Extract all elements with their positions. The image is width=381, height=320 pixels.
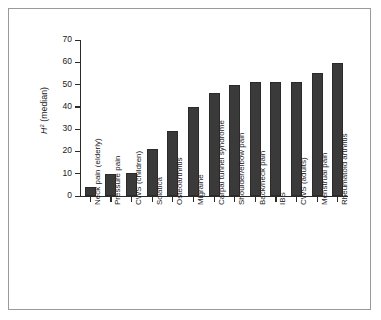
bar — [270, 82, 281, 196]
x-axis-tick-label: Rheumatoid arthritis — [341, 133, 349, 205]
x-axis-tick — [152, 197, 153, 202]
x-axis-tick-label: IBS — [279, 192, 287, 205]
y-axis-tick-label: 0 — [46, 191, 72, 200]
y-axis-superscript: 2 — [39, 124, 45, 127]
x-axis-tick — [172, 197, 173, 202]
x-axis-tick-label: Shoulder/elbow pain — [238, 133, 246, 206]
x-axis-tick-label: Osteoarthritis — [176, 157, 184, 205]
x-axis-tick-label: Menstrual pain — [321, 153, 329, 205]
x-axis-tick — [255, 197, 256, 202]
x-axis-tick-label: Neck pain (elderly) — [94, 138, 102, 205]
x-axis-tick — [275, 197, 276, 202]
y-axis-tick-label: 30 — [46, 124, 72, 133]
x-axis-tick — [234, 197, 235, 202]
y-axis-tick — [75, 84, 80, 85]
y-axis-tick-label: 70 — [46, 35, 72, 44]
x-axis-tick — [90, 197, 91, 202]
y-axis-tick — [75, 173, 80, 174]
y-axis-tick — [75, 129, 80, 130]
bar-chart: H2 (median) 706050403020100 Neck pain (e… — [0, 0, 381, 320]
x-axis-tick — [214, 197, 215, 202]
x-axis-tick-label: Pressure pain — [114, 156, 122, 205]
x-axis-tick-label: CWS (children) — [135, 151, 143, 205]
y-axis-tick-label: 60 — [46, 57, 72, 66]
x-axis-tick — [296, 197, 297, 202]
x-axis-tick-label: CWS (adults) — [300, 157, 308, 205]
x-axis-tick-label: Migraine — [197, 174, 205, 205]
x-axis-tick — [337, 197, 338, 202]
y-axis-tick-label: 50 — [46, 80, 72, 89]
y-axis-tick — [75, 62, 80, 63]
y-axis-tick — [75, 40, 80, 41]
y-axis-tick-label: 10 — [46, 169, 72, 178]
x-axis-tick-label: Back/neck pain — [259, 151, 267, 205]
y-axis-line — [80, 40, 81, 197]
y-axis-tick — [75, 196, 80, 197]
x-axis-tick — [193, 197, 194, 202]
x-axis-tick — [131, 197, 132, 202]
y-axis-tick-label: 20 — [46, 146, 72, 155]
x-axis-tick — [110, 197, 111, 202]
x-axis-tick — [317, 197, 318, 202]
y-axis-tick-label: 40 — [46, 102, 72, 111]
y-axis-tick — [75, 106, 80, 107]
x-axis-tick-label: Carpal tunnel syndrome — [218, 120, 226, 205]
x-axis-tick-label: Sciatica — [156, 177, 164, 205]
y-axis-tick — [75, 151, 80, 152]
